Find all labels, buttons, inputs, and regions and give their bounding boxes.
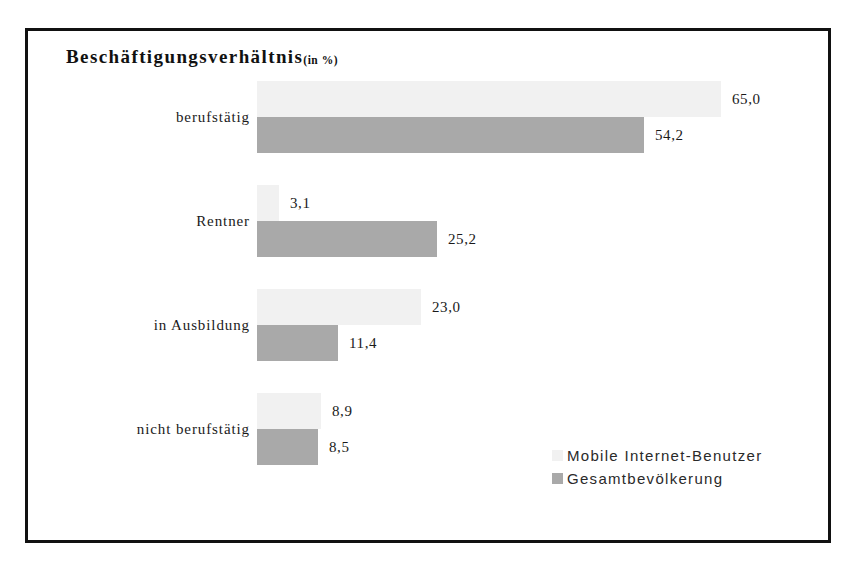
bar-group: in Ausbildung 23,0 11,4 xyxy=(28,277,828,373)
bar-gesamtbevoelkerung[interactable] xyxy=(257,429,318,465)
chart-title-unit: (in %) xyxy=(303,54,338,66)
bar-value-label: 8,9 xyxy=(332,403,353,420)
bar-gesamtbevoelkerung[interactable] xyxy=(257,221,437,257)
bar-value-label: 11,4 xyxy=(349,335,377,352)
bar-row-gesamtbevoelkerung: 8,5 xyxy=(257,429,318,465)
legend-swatch-icon xyxy=(552,450,563,461)
bar-row-mobile-internet-benutzer: 65,0 xyxy=(257,81,721,117)
legend-label: Gesamtbevölkerung xyxy=(567,470,723,487)
bar-group: Rentner 3,1 25,2 xyxy=(28,173,828,269)
plot-area: Beschäftigungsverhältnis(in %) berufstät… xyxy=(28,31,828,540)
bar-row-mobile-internet-benutzer: 23,0 xyxy=(257,289,421,325)
chart-legend: Mobile Internet-Benutzer Gesamtbevölkeru… xyxy=(552,444,762,490)
legend-swatch-icon xyxy=(552,473,563,484)
category-label: in Ausbildung xyxy=(154,317,250,334)
bar-value-label: 54,2 xyxy=(655,127,684,144)
bar-row-gesamtbevoelkerung: 54,2 xyxy=(257,117,644,153)
bar-value-label: 23,0 xyxy=(432,299,461,316)
bar-row-gesamtbevoelkerung: 11,4 xyxy=(257,325,338,361)
chart-frame: Beschäftigungsverhältnis(in %) berufstät… xyxy=(25,28,831,543)
chart-title: Beschäftigungsverhältnis(in %) xyxy=(66,47,338,66)
category-label: Rentner xyxy=(196,213,250,230)
bar-mobile-internet-benutzer[interactable] xyxy=(257,289,421,325)
bar-mobile-internet-benutzer[interactable] xyxy=(257,185,279,221)
category-label: berufstätig xyxy=(176,109,250,126)
bar-row-mobile-internet-benutzer: 3,1 xyxy=(257,185,279,221)
bar-row-gesamtbevoelkerung: 25,2 xyxy=(257,221,437,257)
legend-item-mobile-internet-benutzer[interactable]: Mobile Internet-Benutzer xyxy=(552,444,762,467)
bar-row-mobile-internet-benutzer: 8,9 xyxy=(257,393,321,429)
category-label: nicht berufstätig xyxy=(137,421,250,438)
bar-mobile-internet-benutzer[interactable] xyxy=(257,81,721,117)
bar-group: berufstätig 65,0 54,2 xyxy=(28,69,828,165)
legend-item-gesamtbevoelkerung[interactable]: Gesamtbevölkerung xyxy=(552,467,762,490)
bar-value-label: 8,5 xyxy=(329,439,350,456)
bar-gesamtbevoelkerung[interactable] xyxy=(257,325,338,361)
legend-label: Mobile Internet-Benutzer xyxy=(567,447,762,464)
bar-gesamtbevoelkerung[interactable] xyxy=(257,117,644,153)
bar-mobile-internet-benutzer[interactable] xyxy=(257,393,321,429)
bar-value-label: 3,1 xyxy=(290,195,311,212)
bar-value-label: 25,2 xyxy=(448,231,477,248)
chart-title-text: Beschäftigungsverhältnis xyxy=(66,46,303,67)
bar-value-label: 65,0 xyxy=(732,91,761,108)
